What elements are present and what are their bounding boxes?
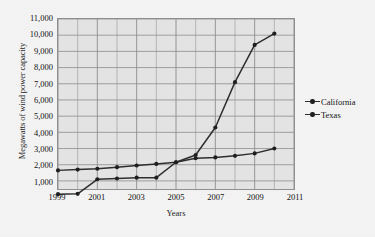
- legend-marker-icon: [305, 110, 320, 119]
- x-axis-tick-label: 2003: [128, 192, 145, 202]
- data-point: [272, 31, 276, 35]
- x-axis-tick-labels: 1999200120032005200720092011: [57, 192, 295, 206]
- data-point: [213, 155, 217, 159]
- series-texas: [56, 31, 277, 196]
- y-axis-tick-labels: 1,0002,0003,0004,0005,0006,0007,0008,000…: [8, 18, 53, 190]
- data-point: [253, 43, 257, 47]
- data-point: [115, 165, 119, 169]
- y-axis-tick-label: 1,000: [8, 178, 53, 187]
- data-series-layer: [58, 19, 294, 189]
- chart-legend: California Texas: [305, 95, 375, 121]
- data-point: [154, 162, 158, 166]
- y-axis-tick-label: 11,000: [8, 14, 53, 23]
- y-axis-tick-label: 10,000: [8, 30, 53, 39]
- x-axis-tick-label: 2001: [88, 192, 105, 202]
- data-point: [272, 146, 276, 150]
- data-point: [95, 177, 99, 181]
- x-axis-title: Years: [57, 208, 295, 218]
- data-point: [194, 153, 198, 157]
- y-axis-tick-label: 7,000: [8, 79, 53, 88]
- y-axis-tick-label: 6,000: [8, 96, 53, 105]
- legend-label: Texas: [320, 110, 341, 120]
- data-point: [174, 160, 178, 164]
- y-axis-tick-label: 2,000: [8, 161, 53, 170]
- x-axis-tick-label: 2005: [168, 192, 185, 202]
- data-point: [135, 163, 139, 167]
- data-point: [76, 167, 80, 171]
- data-point: [135, 176, 139, 180]
- y-axis-tick-label: 5,000: [8, 112, 53, 121]
- y-axis-tick-label: 3,000: [8, 145, 53, 154]
- x-axis-tick-label: 2011: [287, 192, 304, 202]
- data-point: [56, 168, 60, 172]
- y-axis-tick-label: 4,000: [8, 128, 53, 137]
- series-california: [56, 146, 277, 172]
- data-point: [213, 125, 217, 129]
- data-point: [115, 176, 119, 180]
- data-point: [253, 151, 257, 155]
- y-axis-tick-label: 9,000: [8, 47, 53, 56]
- data-point: [233, 80, 237, 84]
- x-axis-tick-label: 1999: [49, 192, 66, 202]
- legend-label: California: [320, 97, 355, 107]
- legend-marker-icon: [305, 97, 320, 106]
- x-axis-tick-label: 2009: [247, 192, 264, 202]
- legend-item-california[interactable]: California: [305, 95, 375, 108]
- x-axis-tick-label: 2007: [207, 192, 224, 202]
- legend-item-texas[interactable]: Texas: [305, 108, 375, 121]
- data-point: [95, 167, 99, 171]
- plot-area: [57, 18, 295, 190]
- data-point: [154, 176, 158, 180]
- data-point: [233, 154, 237, 158]
- y-axis-tick-label: 8,000: [8, 63, 53, 72]
- line-chart-figure: Megawatts of wind power capacity 1,0002,…: [0, 0, 375, 237]
